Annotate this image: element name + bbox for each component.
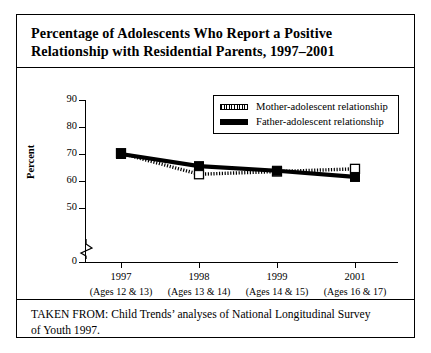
source-note-line-2: of Youth 1997. (31, 323, 403, 339)
chart-plot-area: Percent 90 80 70 60 50 0 1997 (Ages 12 &… (17, 67, 414, 299)
series-father-adolescent (117, 150, 360, 182)
legend-item-mother: Mother-adolescent relationship (220, 99, 392, 114)
legend-item-father: Father-adolescent relationship (220, 114, 392, 129)
figure-title: Percentage of Adolescents Who Report a P… (31, 24, 391, 60)
figure-frame: Percentage of Adolescents Who Report a P… (16, 14, 415, 338)
legend-label-mother: Mother-adolescent relationship (256, 101, 388, 112)
source-divider (17, 299, 414, 300)
chart-legend: Mother-adolescent relationship Father-ad… (213, 95, 399, 134)
figure-title-line-2: Relationship with Residential Parents, 1… (31, 42, 391, 60)
source-note-line-1: TAKEN FROM: Child Trends’ analyses of Na… (31, 307, 403, 323)
legend-swatch-mother-icon (220, 104, 248, 110)
legend-label-father: Father-adolescent relationship (256, 116, 384, 127)
figure-title-line-1: Percentage of Adolescents Who Report a P… (31, 24, 391, 42)
source-note: TAKEN FROM: Child Trends’ analyses of Na… (31, 307, 403, 338)
legend-swatch-father-icon (220, 119, 248, 125)
